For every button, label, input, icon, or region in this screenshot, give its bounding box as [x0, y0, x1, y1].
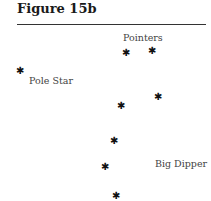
- dipper-star-icon: ✱: [101, 162, 109, 172]
- dipper-star-icon: ✱: [117, 101, 125, 111]
- pole-star-icon: ✱: [16, 66, 24, 76]
- figure-title: Figure 15b: [17, 1, 97, 16]
- pole-star-label: Pole Star: [29, 75, 73, 86]
- pointer-star-icon: ✱: [148, 46, 156, 56]
- pointer-star-icon: ✱: [122, 48, 130, 58]
- dipper-star-icon: ✱: [112, 191, 120, 201]
- big-dipper-label: Big Dipper: [155, 158, 207, 169]
- dipper-star-icon: ✱: [110, 136, 118, 146]
- dipper-star-icon: ✱: [154, 92, 162, 102]
- pointers-label: Pointers: [123, 32, 163, 43]
- title-divider: [17, 24, 206, 25]
